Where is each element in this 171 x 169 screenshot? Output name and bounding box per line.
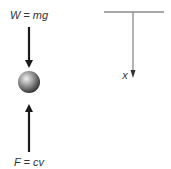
- drag-force-arrow: [25, 104, 33, 152]
- x-axis-label: x: [121, 69, 128, 81]
- x-axis-arrow: [131, 12, 136, 78]
- diagram-canvas: W = mg F = cv x: [0, 0, 171, 169]
- weight-arrowhead-icon: [25, 60, 33, 68]
- drag-arrowhead-icon: [25, 104, 33, 112]
- weight-force-arrow: [25, 27, 33, 68]
- falling-sphere: [18, 71, 40, 93]
- x-axis-arrowhead-icon: [131, 70, 136, 78]
- weight-label: W = mg: [10, 9, 49, 21]
- drag-label: F = cv: [14, 156, 46, 168]
